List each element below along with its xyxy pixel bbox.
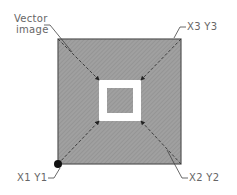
label-vector-line1: Vector bbox=[14, 14, 48, 24]
label-x1-y1: X1 Y1 bbox=[17, 173, 47, 183]
label-vector-line2: image bbox=[16, 25, 49, 35]
label-x2-y2: X2 Y2 bbox=[189, 173, 219, 183]
leader-x1y1 bbox=[48, 168, 60, 178]
leader-x3y3 bbox=[174, 27, 186, 38]
label-x3-y3: X3 Y3 bbox=[187, 22, 217, 32]
inner-square bbox=[107, 88, 133, 113]
origin-point bbox=[54, 160, 62, 168]
